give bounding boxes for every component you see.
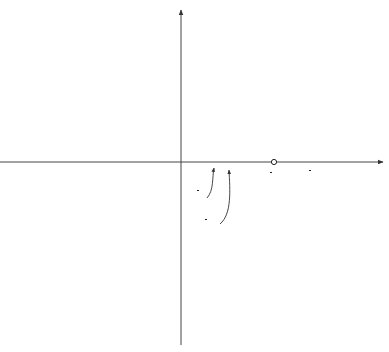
zero-marker-one-over-pi [271, 159, 276, 164]
tick-label-1-over-2pi [205, 219, 207, 220]
diagram-canvas [0, 0, 389, 352]
label-main-curve [309, 164, 311, 175]
plot-svg [0, 0, 389, 352]
leader-arrow-1-2pi [220, 170, 230, 224]
leader-arrow-1-3pi [207, 168, 214, 198]
tick-label-1-over-3pi [197, 190, 199, 191]
tick-label-1-over-pi [270, 172, 272, 173]
